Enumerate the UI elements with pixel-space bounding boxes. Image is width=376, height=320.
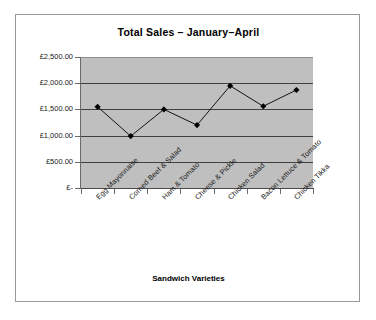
y-axis-line (80, 57, 81, 189)
y-axis-tick-label: £1,500.00 (17, 104, 73, 113)
x-axis-tick-mark (180, 189, 181, 194)
y-axis-tick-mark (75, 162, 81, 163)
x-axis-tick-mark (81, 189, 82, 194)
y-axis-tick-label: £1,000.00 (17, 131, 73, 140)
y-axis-tick-label: £- (17, 183, 73, 192)
y-axis-tick-label: £2,500.00 (17, 52, 73, 61)
x-axis-tick-mark (313, 189, 314, 194)
y-axis-tick-label: £500.00 (17, 157, 73, 166)
gridline (81, 83, 313, 84)
chart-container: Total Sales – January–April £-£500.00£1,… (15, 14, 360, 302)
y-axis-tick-mark (75, 57, 81, 58)
gridline (81, 57, 313, 58)
y-axis-tick-mark (75, 136, 81, 137)
gridline (81, 109, 313, 110)
y-axis-tick-label: £2,000.00 (17, 78, 73, 87)
gridline (81, 136, 313, 137)
y-axis-tick-mark (75, 83, 81, 84)
y-axis-tick-mark (75, 109, 81, 110)
x-axis-title: Sandwich Varieties (16, 274, 361, 283)
y-axis-labels: £-£500.00£1,000.00£1,500.00£2,000.00£2,5… (16, 15, 73, 303)
x-axis-tick-mark (280, 189, 281, 194)
x-axis-tick-mark (147, 189, 148, 194)
x-axis-tick-mark (114, 189, 115, 194)
x-axis-tick-mark (214, 189, 215, 194)
x-axis-tick-mark (247, 189, 248, 194)
